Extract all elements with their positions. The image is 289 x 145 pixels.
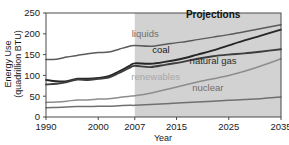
x-axis-title: Year	[154, 133, 172, 143]
x-tick-label: 1990	[35, 121, 56, 132]
series-label-natural-gas: natural gas	[190, 55, 237, 66]
chart-canvas: 050100150200250 199020002007201520252035…	[0, 0, 289, 145]
y-tick-label: 100	[24, 70, 40, 81]
y-tick-label: 50	[29, 91, 40, 102]
x-tick-label: 2025	[218, 121, 239, 132]
series-label-liquids: liquids	[132, 28, 159, 39]
y-axis-title-line1: Energy Use	[3, 40, 13, 87]
y-axis: 050100150200250	[24, 7, 46, 122]
x-tick-label: 2007	[124, 121, 145, 132]
x-axis: 199020002007201520252035	[35, 117, 289, 132]
y-axis-title-line2: (quadrillion BTU)	[13, 30, 23, 98]
energy-use-line-chart: 050100150200250 199020002007201520252035…	[0, 0, 289, 145]
x-tick-label: 2035	[270, 121, 289, 132]
series-label-renewables: renewables	[131, 71, 180, 82]
y-tick-label: 200	[24, 28, 40, 39]
series-label-nuclear: nuclear	[192, 82, 223, 93]
y-tick-label: 250	[24, 7, 40, 18]
y-axis-title-group: Energy Use (quadrillion BTU)	[3, 30, 23, 98]
y-tick-label: 150	[24, 49, 40, 60]
x-tick-label: 2000	[88, 121, 109, 132]
series-label-coal: coal	[152, 44, 169, 55]
projections-title: Projections	[186, 9, 241, 20]
x-tick-label: 2015	[166, 121, 187, 132]
